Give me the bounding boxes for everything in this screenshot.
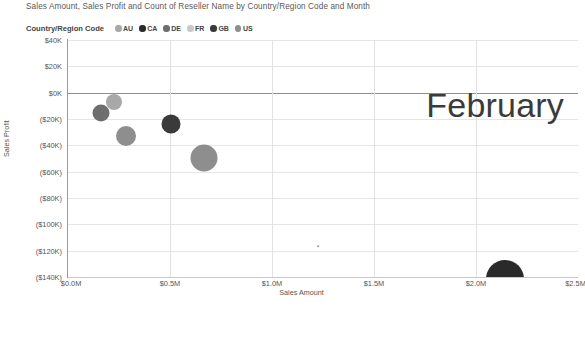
bubble-us[interactable] <box>116 126 136 146</box>
bubble-us[interactable] <box>191 145 218 172</box>
y-tick-label: $0K <box>49 88 62 97</box>
vertical-gridline <box>476 40 477 277</box>
x-tick-label: $0.0M <box>61 279 82 288</box>
vertical-gridline <box>272 40 273 277</box>
horizontal-gridline <box>68 66 578 67</box>
horizontal-gridline <box>68 224 578 225</box>
bubble-au[interactable] <box>106 94 122 110</box>
horizontal-gridline <box>68 172 578 173</box>
y-tick-label: ($20K) <box>40 115 62 124</box>
horizontal-gridline <box>68 251 578 252</box>
vertical-gridline <box>170 40 171 277</box>
vertical-gridline <box>374 40 375 277</box>
x-tick-label: $2.5M <box>565 279 585 288</box>
x-axis-line <box>68 277 578 278</box>
x-tick-label: $2.0M <box>466 279 487 288</box>
y-tick-label: ($40K) <box>40 141 62 150</box>
y-tick-label: $40K <box>45 36 62 45</box>
horizontal-gridline <box>68 145 578 146</box>
y-tick-label: ($80K) <box>40 194 62 203</box>
micro-dot <box>317 245 319 247</box>
x-tick-label: $0.5M <box>160 279 181 288</box>
bubble-gb[interactable] <box>162 115 181 134</box>
plot-area: February <box>68 40 578 277</box>
horizontal-gridline <box>68 198 578 199</box>
timeline-play-axis[interactable]: JanuaryFebruaryMarchAprilMayJuneJulyAugu… <box>0 294 585 352</box>
y-tick-label: ($120K) <box>36 246 62 255</box>
x-tick-label: $1.0M <box>262 279 283 288</box>
y-tick-label: $20K <box>45 62 62 71</box>
month-watermark: February <box>426 88 564 122</box>
y-tick-label: ($100K) <box>36 220 62 229</box>
y-tick-label: ($140K) <box>36 273 62 282</box>
y-tick-label: ($60K) <box>40 167 62 176</box>
y-axis-tick-labels: $40K$20K$0K($20K)($40K)($60K)($80K)($100… <box>0 40 62 277</box>
chart-canvas: Sales Profit $40K$20K$0K($20K)($40K)($60… <box>0 0 585 290</box>
x-tick-label: $1.5M <box>364 279 385 288</box>
bubble-ca[interactable] <box>486 260 524 277</box>
bubble-de[interactable] <box>93 105 110 122</box>
horizontal-gridline <box>68 40 578 41</box>
